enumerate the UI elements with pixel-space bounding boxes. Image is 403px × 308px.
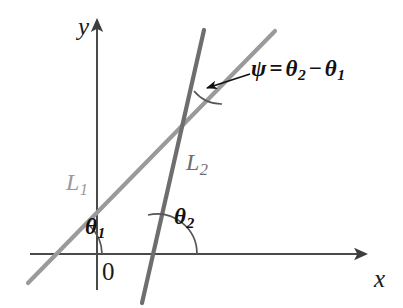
origin-label: 0: [102, 259, 115, 284]
theta1-subscript: 1: [97, 224, 105, 241]
theta1-label: θ1: [85, 215, 105, 241]
equals-sign: =: [266, 56, 285, 81]
line-L2-label: L2: [186, 150, 208, 178]
line-L1-label-base: L: [66, 169, 79, 195]
minus-sign: −: [306, 56, 325, 81]
psi-symbol: ψ: [251, 56, 266, 81]
line-L1-label-subscript: 1: [79, 180, 88, 199]
theta2-label: θ2: [174, 205, 194, 231]
psi-equation: ψ=θ2−θ1: [251, 57, 345, 83]
psi-theta2-subscript: 2: [297, 66, 305, 83]
theta1-symbol: θ: [85, 214, 97, 239]
psi-theta1-subscript: 1: [337, 66, 345, 83]
theta2-symbol: θ: [174, 204, 186, 229]
line-L1: [28, 31, 275, 283]
y-axis-label: y: [78, 14, 89, 39]
psi-theta1-symbol: θ: [325, 56, 337, 81]
x-axis-label: x: [374, 266, 385, 291]
line-L2-label-base: L: [186, 149, 199, 175]
theta2-subscript: 2: [186, 214, 194, 231]
line-L1-label: L1: [66, 170, 88, 198]
figure-canvas: y x 0 L1 L2 θ1 θ2 ψ=θ2−θ1: [0, 0, 403, 308]
line-L2-label-subscript: 2: [199, 160, 208, 179]
psi-theta2-symbol: θ: [285, 56, 297, 81]
